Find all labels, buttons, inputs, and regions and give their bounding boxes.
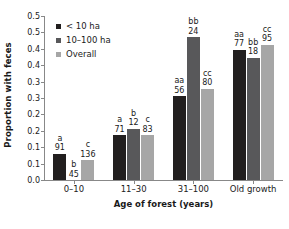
y-axis-tick-label: 0.2 <box>27 126 40 135</box>
y-axis-tick-label: 0.1 <box>27 159 40 168</box>
bar <box>81 160 94 180</box>
bar-annotation-letters: bb <box>184 17 203 27</box>
x-axis-title: Age of forest (years) <box>44 199 283 209</box>
bar-annotation-count: 80 <box>198 78 217 88</box>
y-axis-tick-label: 0.2 <box>27 110 40 119</box>
y-axis-tick-mark <box>41 180 44 181</box>
y-axis-tick-label: 0.4 <box>27 61 40 70</box>
x-axis-tick-labels: 0–1011–3031–100Old growth <box>44 184 283 198</box>
bar <box>113 135 126 180</box>
bar-annotation: bb24 <box>184 17 203 36</box>
bar <box>173 96 186 180</box>
y-axis-tick-mark <box>41 164 44 165</box>
y-axis-tick-label: 0.5 <box>27 12 40 21</box>
bar-annotation-count: 95 <box>258 34 277 44</box>
bar <box>233 50 246 180</box>
x-axis-tick-label: 31–100 <box>178 184 209 194</box>
bar-annotation-count: 136 <box>78 150 97 160</box>
bar-annotation-letters: c <box>78 140 97 150</box>
legend-item-label: 10–100 ha <box>66 35 111 45</box>
y-axis-title: Proportion with feces <box>0 0 16 190</box>
y-axis-tick-label: 0.3 <box>27 94 40 103</box>
bar <box>261 45 274 180</box>
y-axis-tick-label: 0.5 <box>27 28 40 37</box>
x-axis-tick-label: Old growth <box>230 184 277 194</box>
bar-annotation-letters: cc <box>198 69 217 79</box>
y-axis-tick-label: 0.1 <box>27 143 40 152</box>
legend-swatch-icon <box>56 52 61 57</box>
bar-group: aa77bb18cc95 <box>233 16 274 180</box>
y-axis-title-text: Proportion with feces <box>3 42 13 147</box>
bar-annotation: c83 <box>138 115 157 134</box>
bar <box>247 58 260 180</box>
bar-annotation-letters: a <box>50 134 69 144</box>
legend-item[interactable]: 10–100 ha <box>56 33 146 47</box>
bar <box>187 37 200 180</box>
x-axis-tick-label: 11–30 <box>121 184 147 194</box>
y-axis-tick-mark <box>41 98 44 99</box>
legend-item-label: < 10 ha <box>66 21 100 31</box>
bar-chart-figure: Proportion with feces 0.00.10.10.20.20.3… <box>0 0 289 229</box>
y-axis-tick-mark <box>41 65 44 66</box>
bar-group: aa56bb24cc80 <box>173 16 214 180</box>
y-axis-tick-mark <box>41 49 44 50</box>
y-axis-tick-mark <box>41 147 44 148</box>
bar <box>141 135 154 180</box>
y-axis-tick-mark <box>41 82 44 83</box>
legend-swatch-icon <box>56 38 61 43</box>
x-axis-line <box>44 180 283 181</box>
legend-swatch-icon <box>56 24 61 29</box>
y-axis-line <box>44 16 45 181</box>
chart-legend: < 10 ha10–100 haOverall <box>56 19 146 61</box>
y-axis-tick-mark <box>41 32 44 33</box>
bar-annotation-letters: cc <box>258 25 277 35</box>
y-axis-tick-mark <box>41 131 44 132</box>
bar <box>201 89 214 180</box>
legend-item[interactable]: Overall <box>56 47 146 61</box>
y-axis-tick-label: 0.3 <box>27 77 40 86</box>
y-axis-tick-labels: 0.00.10.10.20.20.30.30.40.40.50.5 <box>16 0 42 190</box>
bar-annotation: cc95 <box>258 25 277 44</box>
y-axis-tick-label: 0.0 <box>27 176 40 185</box>
x-axis-tick-label: 0–10 <box>64 184 84 194</box>
bar-annotation: a91 <box>50 134 69 153</box>
bar-annotation-count: 83 <box>138 125 157 135</box>
legend-item[interactable]: < 10 ha <box>56 19 146 33</box>
bar-annotation: cc80 <box>198 69 217 88</box>
y-axis-tick-mark <box>41 114 44 115</box>
y-axis-tick-label: 0.4 <box>27 44 40 53</box>
bar-annotation-letters: c <box>138 115 157 125</box>
bar-annotation-count: 24 <box>184 27 203 37</box>
bar-annotation: c136 <box>78 140 97 159</box>
bar-annotation-count: 91 <box>50 143 69 153</box>
y-axis-tick-mark <box>41 16 44 17</box>
bar <box>127 129 140 180</box>
legend-item-label: Overall <box>66 49 96 59</box>
